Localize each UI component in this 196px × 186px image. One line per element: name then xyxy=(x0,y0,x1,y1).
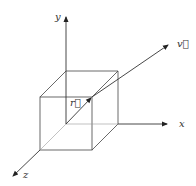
z-axis-hidden xyxy=(40,124,66,150)
x-axis-label: x xyxy=(179,118,185,129)
cube-edge-top-left xyxy=(40,71,66,97)
r-vector-label: r⃗ xyxy=(70,97,81,108)
cube-edge-bottom-right xyxy=(92,124,118,150)
coordinate-diagram: y x z r⃗ v⃗ xyxy=(0,0,196,186)
cube-edge-top-right xyxy=(92,71,118,97)
v-vector-label: v⃗ xyxy=(177,38,189,49)
z-axis-label: z xyxy=(22,169,29,180)
y-axis-label: y xyxy=(54,11,61,22)
